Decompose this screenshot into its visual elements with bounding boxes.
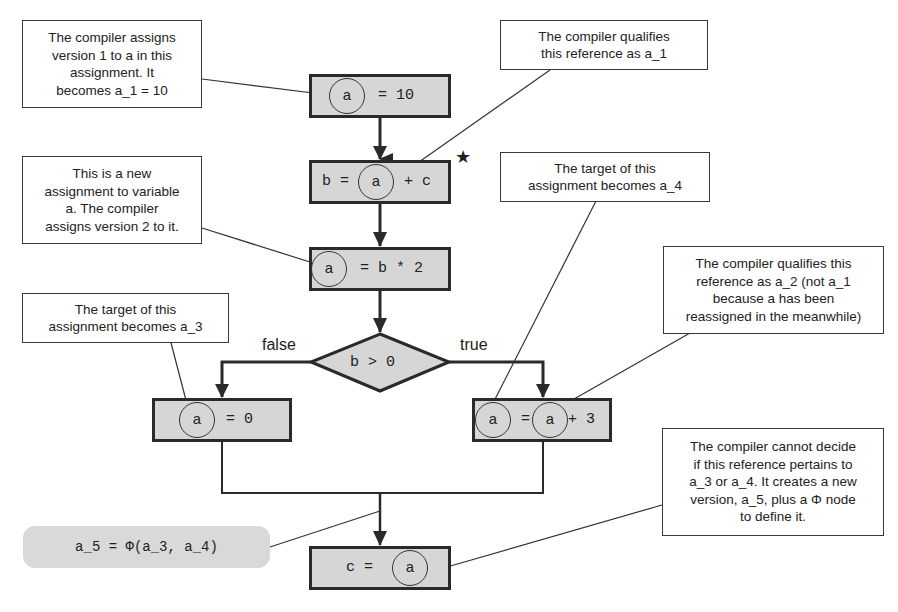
- note-target-a3: The target of this assignment becomes a_…: [22, 293, 229, 343]
- note-line: The target of this: [49, 301, 203, 319]
- note-version-1: The compiler assigns version 1 to a in t…: [22, 20, 202, 108]
- var-circle-a: a: [311, 251, 347, 287]
- note-line: version 1 to a in this: [48, 47, 176, 65]
- node-code: b =: [322, 173, 349, 190]
- note-line: The target of this: [528, 160, 682, 178]
- node-assign-c: [309, 546, 451, 590]
- note-line: reassigned in the meanwhile): [686, 308, 862, 326]
- node-code: = b * 2: [360, 260, 423, 277]
- node-assign-a-0: [152, 398, 292, 442]
- note-line: because a has been: [686, 290, 862, 308]
- phi-node-definition: a_5 = Φ(a_3, a_4): [23, 526, 270, 568]
- branch-label-true: true: [460, 336, 488, 354]
- note-line: version, a_5, plus a Φ node: [689, 491, 856, 509]
- note-line: reference as a_2 (not a_1: [686, 273, 862, 291]
- note-target-a4: The target of this assignment becomes a_…: [500, 152, 710, 202]
- note-qualify-a1: The compiler qualifies this reference as…: [500, 20, 708, 70]
- node-code: = 10: [378, 87, 414, 104]
- var-circle-a: a: [329, 78, 365, 114]
- note-line: This is a new: [44, 165, 179, 183]
- note-line: The compiler assigns: [48, 29, 176, 47]
- note-version-2: This is a new assignment to variable a. …: [22, 156, 202, 244]
- note-line: if this reference pertains to: [689, 456, 856, 474]
- var-circle-a: a: [358, 164, 394, 200]
- star-icon: ★: [455, 146, 471, 168]
- var-circle-a: a: [392, 550, 428, 586]
- note-qualify-a2: The compiler qualifies this reference as…: [663, 246, 884, 334]
- node-code: =: [521, 411, 530, 428]
- node-code: + 3: [568, 411, 595, 428]
- note-line: assignment. It: [48, 64, 176, 82]
- node-code: = 0: [226, 411, 253, 428]
- note-line: to define it.: [689, 508, 856, 526]
- branch-label-false: false: [262, 336, 296, 354]
- note-line: assignment becomes a_3: [49, 318, 203, 336]
- note-line: The compiler qualifies: [538, 28, 669, 46]
- note-line: The compiler cannot decide: [689, 438, 856, 456]
- note-phi-node: The compiler cannot decide if this refer…: [662, 428, 884, 536]
- note-line: a. The compiler: [44, 200, 179, 218]
- note-line: a_3 or a_4. It creates a new: [689, 473, 856, 491]
- var-circle-a: a: [179, 402, 215, 438]
- note-line: this reference as a_1: [538, 45, 669, 63]
- condition-text: b > 0: [350, 354, 395, 371]
- note-line: The compiler qualifies this: [686, 255, 862, 273]
- note-line: assignment becomes a_4: [528, 177, 682, 195]
- note-line: assignment to variable: [44, 183, 179, 201]
- note-line: assigns version 2 to it.: [44, 218, 179, 236]
- node-code: c =: [346, 559, 373, 576]
- node-code: + c: [404, 173, 431, 190]
- note-line: becomes a_1 = 10: [48, 82, 176, 100]
- var-circle-a-target: a: [475, 402, 511, 438]
- var-circle-a-ref: a: [532, 402, 568, 438]
